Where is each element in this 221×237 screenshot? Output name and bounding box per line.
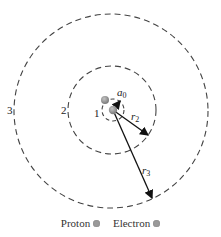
orbit-3-label: 3 [7,104,13,116]
bohr-diagram: 3 2 1 a0 r2 r3 [0,0,221,237]
legend: Proton Electron [0,217,221,229]
electron-dot [101,96,109,104]
electron-icon [153,220,160,227]
r3-label: r3 [142,164,150,178]
proton-icon [93,220,100,227]
r2-label: r2 [131,110,139,124]
legend-proton-label: Proton [61,217,90,229]
proton-dot [109,106,117,114]
orbit-2-label: 2 [61,104,67,116]
orbit-1-label: 1 [94,107,100,119]
legend-electron-label: Electron [113,217,150,229]
legend-proton: Proton [61,217,100,229]
legend-electron: Electron [113,217,160,229]
a0-label: a0 [117,86,127,100]
